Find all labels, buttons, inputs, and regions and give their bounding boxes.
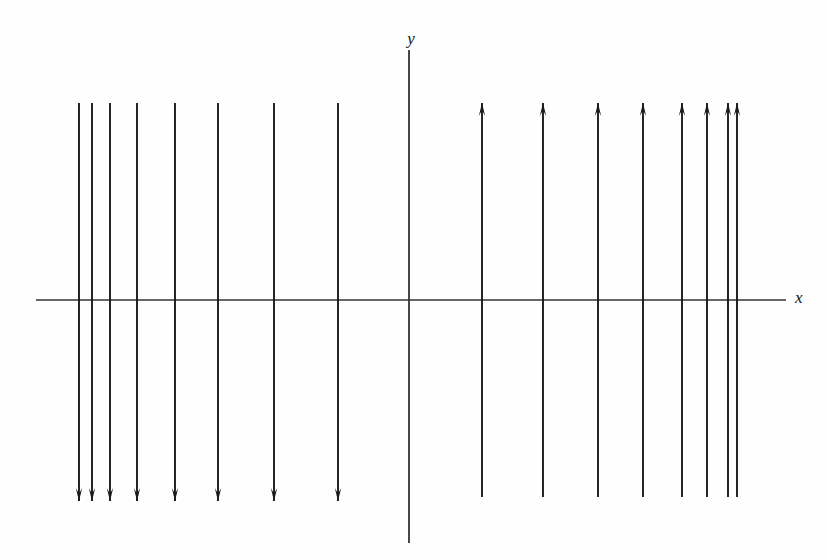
slope-field-figure: x y	[0, 0, 827, 560]
y-axis-label: y	[405, 29, 415, 48]
figure-background	[0, 0, 827, 560]
x-axis-label: x	[794, 288, 803, 307]
slope-field-canvas: x y	[0, 0, 827, 560]
